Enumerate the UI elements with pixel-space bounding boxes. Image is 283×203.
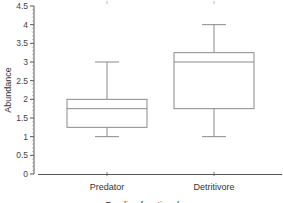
y-tick-label: 0 [23, 169, 28, 179]
box-predator: Predator [67, 1, 147, 192]
y-tick-label: 1 [23, 132, 28, 142]
y-tick-label: 4.5 [16, 1, 28, 11]
y-tick-label: 0.5 [16, 150, 28, 160]
box-plot-chart: 00.511.522.533.544.5 PredatorDetritivore… [0, 0, 283, 203]
box-detritivore: Detritivore [174, 1, 254, 192]
y-tick-label: 2 [23, 94, 28, 104]
box-series: PredatorDetritivore [67, 1, 254, 192]
y-tick-label: 4 [23, 20, 28, 30]
iqr-box [67, 99, 147, 127]
x-axis-title: Feeding functional group [105, 200, 204, 203]
x-category-label: Predator [90, 182, 125, 192]
y-tick-label: 3.5 [16, 38, 28, 48]
y-tick-label: 1.5 [16, 113, 28, 123]
y-tick-label: 2.5 [16, 76, 28, 86]
y-axis-title: Abundance [3, 67, 13, 113]
y-tick-label: 3 [23, 57, 28, 67]
y-axis: 00.511.522.533.544.5 [16, 1, 34, 179]
iqr-box [174, 53, 254, 109]
x-category-label: Detritivore [193, 182, 234, 192]
